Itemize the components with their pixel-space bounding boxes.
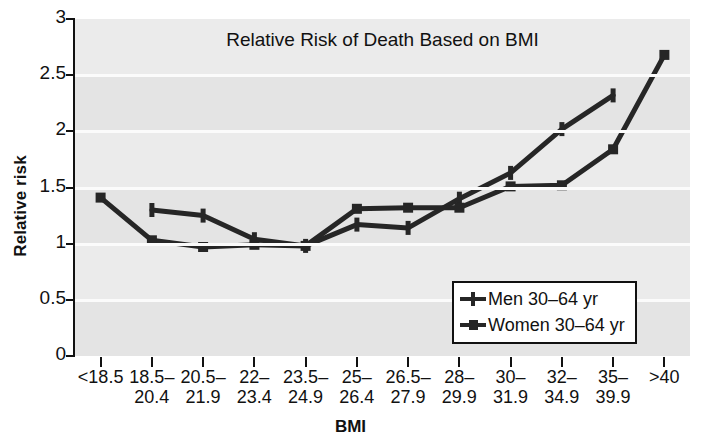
x-axis-tick-mark bbox=[663, 357, 665, 367]
data-point-square bbox=[659, 50, 669, 60]
y-axis-tick-label: 1.5 bbox=[14, 175, 66, 197]
data-point-plus bbox=[406, 221, 411, 235]
gridline bbox=[75, 130, 690, 133]
square-marker-icon bbox=[460, 318, 486, 332]
x-axis-tick-mark bbox=[407, 357, 409, 367]
data-point-square bbox=[352, 204, 362, 214]
y-axis-tick-mark bbox=[66, 355, 75, 357]
x-axis-tick-mark bbox=[612, 357, 614, 367]
x-axis-title: BMI bbox=[0, 417, 701, 437]
y-axis-tick-label: 2.5 bbox=[14, 62, 66, 84]
data-point-plus bbox=[201, 209, 206, 223]
plus-marker-icon bbox=[460, 292, 486, 306]
x-axis-tick-mark bbox=[356, 357, 358, 367]
data-point-plus bbox=[149, 203, 154, 217]
y-axis-tick-mark bbox=[66, 18, 75, 20]
data-point-square bbox=[403, 203, 413, 213]
y-axis-tick-mark bbox=[66, 187, 75, 189]
chart-legend: Men 30–64 yr Women 30–64 yr bbox=[452, 281, 637, 344]
data-point-square bbox=[454, 203, 464, 213]
y-axis-tick-mark bbox=[66, 243, 75, 245]
series-line-women bbox=[101, 55, 665, 247]
legend-label-men: Men 30–64 yr bbox=[488, 289, 598, 310]
x-axis-tick-mark bbox=[100, 357, 102, 367]
y-axis-tick-mark bbox=[66, 130, 75, 132]
gridline bbox=[75, 243, 690, 246]
data-point-plus bbox=[611, 88, 616, 102]
data-point-plus bbox=[559, 122, 564, 136]
y-axis-tick-mark bbox=[66, 74, 75, 76]
x-axis-tick-mark bbox=[305, 357, 307, 367]
data-point-square bbox=[608, 144, 618, 154]
legend-item-men[interactable]: Men 30–64 yr bbox=[460, 286, 625, 312]
data-point-plus bbox=[508, 166, 513, 180]
x-axis-tick-mark bbox=[458, 357, 460, 367]
x-axis-tick-mark bbox=[561, 357, 563, 367]
x-axis-tick-mark bbox=[151, 357, 153, 367]
x-tick-line2: 39.9 bbox=[573, 387, 653, 407]
y-axis-tick-group: 00.511.522.53 bbox=[10, 0, 66, 439]
x-axis-tick-mark bbox=[510, 357, 512, 367]
legend-label-women: Women 30–64 yr bbox=[488, 315, 625, 336]
gridline bbox=[75, 74, 690, 77]
y-axis-tick-label: 0.5 bbox=[14, 287, 66, 309]
gridline bbox=[75, 187, 690, 190]
y-axis-tick-mark bbox=[66, 299, 75, 301]
legend-item-women[interactable]: Women 30–64 yr bbox=[460, 312, 625, 338]
x-axis-tick-label: >40 bbox=[624, 367, 701, 387]
y-axis-tick-label: 1 bbox=[14, 231, 66, 253]
y-axis-tick-label: 0 bbox=[14, 343, 66, 365]
x-axis-tick-mark bbox=[202, 357, 204, 367]
x-tick-line1: >40 bbox=[649, 367, 680, 387]
x-axis-tick-mark bbox=[253, 357, 255, 367]
data-point-plus bbox=[354, 218, 359, 232]
series-line-men bbox=[152, 95, 613, 246]
chart-figure: Relative risk 00.511.522.53 Relative Ris… bbox=[0, 0, 701, 439]
y-axis-tick-label: 3 bbox=[14, 6, 66, 28]
y-axis-tick-label: 2 bbox=[14, 118, 66, 140]
data-point-square bbox=[96, 193, 106, 203]
